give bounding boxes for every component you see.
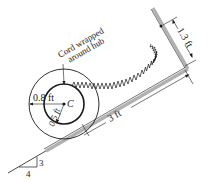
diagram-canvas: 0.8 ft 0.5 ft C Cord wrapped around hub [0, 0, 210, 182]
wall-distance-label: 1.3 ft [175, 26, 195, 50]
slope-rise-label: 3 [39, 158, 44, 168]
wheel-spring-incline-diagram: 0.8 ft 0.5 ft C Cord wrapped around hub [0, 0, 210, 182]
center-label: C [67, 98, 74, 109]
hub-radius-label: 0.5 ft [46, 106, 62, 127]
slope-run-label: 4 [26, 169, 31, 179]
cord-annotation: Cord wrapped around hub [56, 25, 110, 67]
outer-radius-label: 0.8 ft [33, 92, 54, 103]
spring-anchor [160, 25, 163, 28]
cord-annotation-leader [63, 64, 64, 83]
slope-triangle [19, 157, 37, 167]
